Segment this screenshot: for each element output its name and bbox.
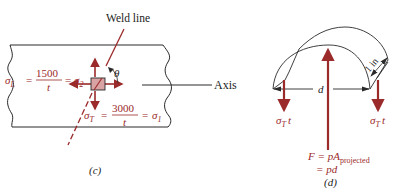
diameter-label: d	[318, 83, 324, 95]
svg-text:=: =	[65, 74, 71, 86]
figure-canvas: Axis Weld line θ σL = 1500 t = σ	[0, 0, 396, 189]
svg-text:σ1: σ1	[152, 109, 161, 124]
svg-text:σL: σL	[5, 74, 15, 89]
panel-c: Axis Weld line θ σL = 1500 t = σ	[5, 12, 237, 177]
resultant-force-label-2: = pd	[316, 163, 338, 175]
width-label: 1 in	[362, 56, 380, 75]
svg-text:σT: σT	[84, 109, 94, 124]
svg-text:=: =	[142, 109, 148, 121]
svg-text:t: t	[47, 81, 51, 93]
sigma-l-formula: σL = 1500 t = σ2	[5, 67, 83, 93]
svg-text:1500: 1500	[36, 67, 59, 79]
panel-d: d 1 in σTt σTt F = pAprojected = pd (d)	[273, 27, 388, 189]
svg-text:σ2: σ2	[74, 74, 83, 89]
left-force-label: σTt	[276, 114, 292, 129]
svg-text:3000: 3000	[112, 102, 135, 114]
svg-text:=: =	[101, 109, 107, 121]
svg-text:t: t	[123, 116, 127, 128]
caption-c: (c)	[89, 164, 102, 177]
caption-d: (d)	[324, 176, 337, 189]
svg-text:=: =	[26, 74, 32, 86]
right-force-label: σTt	[370, 114, 386, 129]
theta-label: θ	[114, 67, 120, 79]
weld-line-label: Weld line	[106, 12, 150, 24]
axis-label: Axis	[214, 78, 237, 92]
